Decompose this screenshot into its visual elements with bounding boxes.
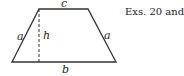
label-left-a: a	[17, 30, 24, 43]
trapezoid-outline	[12, 9, 116, 62]
label-top-c: c	[61, 0, 67, 10]
label-right-a: a	[104, 29, 111, 42]
label-bottom-b: b	[62, 63, 69, 76]
label-height-h: h	[43, 29, 50, 42]
figure-caption: Exs. 20 and 21	[125, 6, 184, 17]
